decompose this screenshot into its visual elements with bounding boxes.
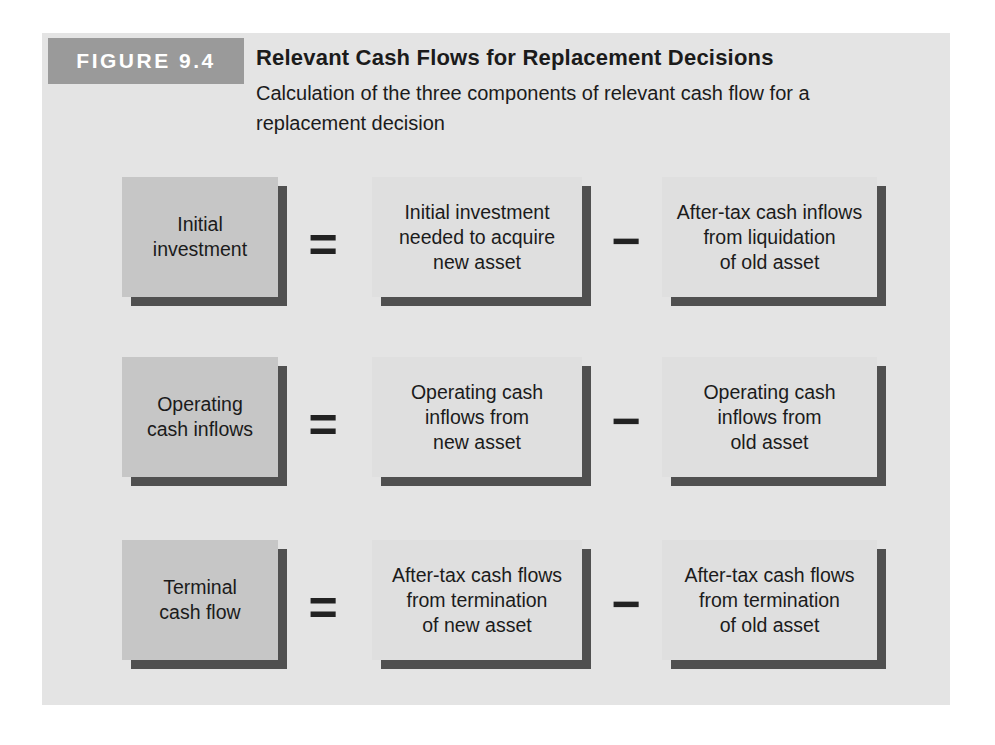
equation-row-operating-cash-inflows: Operating cash inflows = Operating cash … (42, 357, 950, 477)
subtrahend-box: Operating cash inflows from old asset (662, 357, 877, 477)
result-box-label: Operating cash inflows (147, 392, 253, 442)
minuend-box: After-tax cash flows from termination of… (372, 540, 582, 660)
equals-sign: = (293, 357, 353, 485)
equation-row-terminal-cash-flow: Terminal cash flow = After-tax cash flow… (42, 540, 950, 660)
minuend-box-label: After-tax cash flows from termination of… (392, 563, 562, 638)
minus-sign: − (596, 357, 656, 481)
figure-header: Relevant Cash Flows for Replacement Deci… (256, 44, 836, 138)
minuend-box-label: Initial investment needed to acquire new… (399, 200, 555, 275)
equals-sign: = (293, 177, 353, 305)
result-box: Operating cash inflows (122, 357, 278, 477)
equation-row-initial-investment: Initial investment = Initial investment … (42, 177, 950, 297)
figure-title: Relevant Cash Flows for Replacement Deci… (256, 44, 836, 71)
minuend-box: Initial investment needed to acquire new… (372, 177, 582, 297)
equals-sign: = (293, 540, 353, 668)
result-box-label: Initial investment (153, 212, 247, 262)
subtrahend-box-label: Operating cash inflows from old asset (703, 380, 835, 455)
figure-subtitle: Calculation of the three components of r… (256, 78, 826, 138)
minus-sign: − (596, 540, 656, 664)
subtrahend-box: After-tax cash flows from termination of… (662, 540, 877, 660)
result-box: Initial investment (122, 177, 278, 297)
textbook-page: FIGURE 9.4 Relevant Cash Flows for Repla… (0, 0, 995, 745)
subtrahend-box: After-tax cash inflows from liquidation … (662, 177, 877, 297)
figure-panel: FIGURE 9.4 Relevant Cash Flows for Repla… (42, 33, 950, 705)
subtrahend-box-label: After-tax cash inflows from liquidation … (677, 200, 862, 275)
result-box-label: Terminal cash flow (159, 575, 240, 625)
minuend-box: Operating cash inflows from new asset (372, 357, 582, 477)
minuend-box-label: Operating cash inflows from new asset (411, 380, 543, 455)
figure-number-badge: FIGURE 9.4 (48, 38, 244, 84)
minus-sign: − (596, 177, 656, 301)
subtrahend-box-label: After-tax cash flows from termination of… (684, 563, 854, 638)
result-box: Terminal cash flow (122, 540, 278, 660)
